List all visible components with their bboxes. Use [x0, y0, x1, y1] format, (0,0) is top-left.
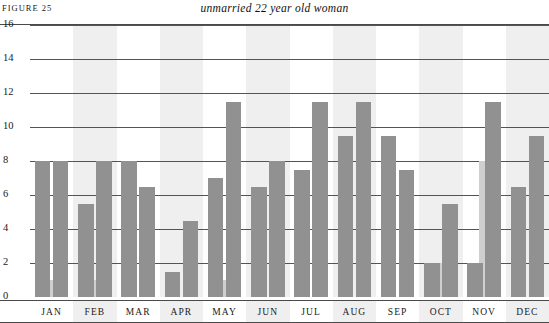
bar-dark: [251, 187, 267, 298]
x-axis-tick-label-oct: OCT: [419, 301, 462, 322]
y-axis-tick-label: 4: [0, 222, 24, 233]
plot-area: [30, 25, 549, 297]
bar-dark: [139, 187, 155, 298]
y-axis-labels: 0246810121416: [0, 25, 30, 297]
y-axis-tick-label: 14: [0, 52, 24, 63]
bar-dark: [312, 102, 328, 298]
x-axis-tick-label-mar: MAR: [117, 301, 160, 322]
x-axis-tick-label-jan: JAN: [30, 301, 73, 322]
bar-dark: [467, 263, 483, 297]
bar-dark: [208, 178, 224, 297]
y-axis-tick-label: 16: [0, 18, 24, 29]
bar-dark: [78, 204, 94, 298]
bar-dark: [294, 170, 310, 298]
bar-dark: [424, 263, 440, 297]
bar-dark: [35, 161, 51, 297]
bar-dark: [399, 170, 415, 298]
gridline: [30, 59, 549, 60]
y-axis-tick-label: 8: [0, 154, 24, 165]
x-axis-tick-label-feb: FEB: [73, 301, 116, 322]
bar-dark: [226, 102, 242, 298]
y-axis-tick-label: 2: [0, 256, 24, 267]
y-axis-tick-label: 6: [0, 188, 24, 199]
x-axis-tick-label-sep: SEP: [376, 301, 419, 322]
x-axis-tick-label-aug: AUG: [333, 301, 376, 322]
bar-dark: [53, 161, 69, 297]
y-axis-tick-label: 0: [0, 290, 24, 301]
figure-header: FIGURE 25 unmarried 22 year old woman: [0, 0, 549, 24]
x-axis-tick-label-nov: NOV: [463, 301, 506, 322]
x-axis-tick-label-jul: JUL: [290, 301, 333, 322]
bar-dark: [381, 136, 397, 298]
gridline: [30, 25, 549, 26]
gridline: [30, 93, 549, 94]
figure-title: unmarried 22 year old woman: [0, 2, 549, 14]
bar-dark: [485, 102, 501, 298]
x-axis-tick-label-may: MAY: [203, 301, 246, 322]
bar-dark: [338, 136, 354, 298]
bar-dark: [442, 204, 458, 298]
bar-dark: [121, 161, 137, 297]
x-axis-tick-label-jun: JUN: [246, 301, 289, 322]
chart-area: 0246810121416: [0, 24, 549, 301]
y-axis-tick-label: 10: [0, 120, 24, 131]
x-axis: JANFEBMARAPRMAYJUNJULAUGSEPOCTNOVDEC: [0, 301, 549, 323]
bar-dark: [511, 187, 527, 298]
bar-dark: [183, 221, 199, 298]
bar-dark: [269, 161, 285, 297]
x-axis-tick-label-dec: DEC: [506, 301, 549, 322]
y-axis-tick-label: 12: [0, 86, 24, 97]
bar-dark: [165, 272, 181, 298]
figure-panel: FIGURE 25 unmarried 22 year old woman 02…: [0, 0, 549, 323]
bar-dark: [356, 102, 372, 298]
gridline: [30, 127, 549, 128]
x-axis-tick-label-apr: APR: [160, 301, 203, 322]
bar-dark: [96, 161, 112, 297]
bar-dark: [529, 136, 545, 298]
